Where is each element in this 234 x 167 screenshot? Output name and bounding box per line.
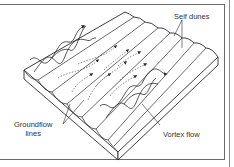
vortex-helix-lower (100, 69, 166, 118)
groundflow-lines-label: Groundflow lines (14, 120, 52, 138)
groundflow-label-line2: lines (14, 129, 52, 138)
groundflow-label-line1: Groundflow (14, 120, 52, 129)
vortex-flow-label: Vortex flow (163, 130, 200, 139)
vortex-helix-upper (30, 26, 96, 72)
seif-dunes-label: Seif dunes (174, 12, 209, 21)
seif-dune-diagram (0, 0, 234, 167)
